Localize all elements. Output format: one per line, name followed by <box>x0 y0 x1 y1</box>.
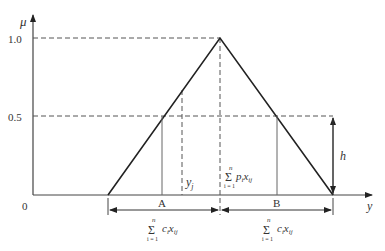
dashed-guides <box>33 38 333 215</box>
left-sum-label: n Σ i = 1 cixij <box>147 216 178 242</box>
x-axis-label: y <box>366 199 373 213</box>
svg-text:cixij: cixij <box>162 222 178 236</box>
tick-one: 1.0 <box>8 33 22 45</box>
svg-text:i = 1: i = 1 <box>262 236 273 242</box>
membership-diagram: μ 1.0 0.5 0 y A B h yj n Σ i = 1 pixij n… <box>0 0 385 251</box>
point-b: B <box>273 197 280 209</box>
svg-text:pixij: pixij <box>235 170 252 184</box>
tick-half: 0.5 <box>8 111 22 123</box>
svg-text:Σ: Σ <box>225 170 232 184</box>
tick-zero: 0 <box>22 200 28 212</box>
yj-label: yj <box>185 175 194 191</box>
svg-text:i = 1: i = 1 <box>147 236 158 242</box>
mu-label: μ <box>19 14 27 29</box>
point-a: A <box>158 197 166 209</box>
svg-text:i = 1: i = 1 <box>224 183 235 189</box>
svg-text:Σ: Σ <box>263 223 270 237</box>
svg-text:cixij: cixij <box>277 222 293 236</box>
svg-text:Σ: Σ <box>148 223 155 237</box>
right-sum-label: n Σ i = 1 cixij <box>262 216 293 242</box>
center-sum-label: n Σ i = 1 pixij <box>224 164 252 189</box>
h-label: h <box>340 149 346 163</box>
